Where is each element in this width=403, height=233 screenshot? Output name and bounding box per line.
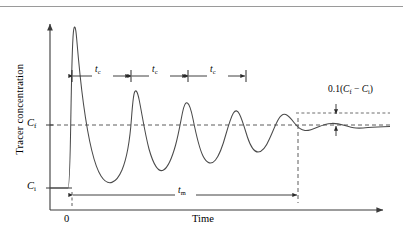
- band-annotation-prefix: 0.1(: [328, 84, 343, 94]
- cf-symbol: C: [27, 117, 34, 128]
- tc-interval-bracket-3: [189, 70, 246, 82]
- x-axis-label: Time: [192, 214, 214, 225]
- tc-label-2: tc: [152, 65, 158, 75]
- chart-svg: [0, 0, 403, 233]
- tc-interval-bracket-2: [132, 70, 188, 82]
- ci-subscript: i: [34, 185, 36, 193]
- tc-subscript-3: c: [213, 68, 216, 75]
- y-axis-label: Tracer concentration: [15, 44, 26, 174]
- tracer-concentration-curve: [50, 27, 390, 188]
- band-annotation-cf-sub: f: [349, 88, 351, 95]
- tm-label: tm: [178, 186, 186, 196]
- tc-label-1: tc: [95, 65, 101, 75]
- ci-label: Ci: [27, 181, 36, 192]
- tc-subscript-2: c: [155, 68, 158, 75]
- band-annotation-ci-sub: i: [368, 88, 370, 95]
- band-annotation: 0.1(Cf − Ci): [328, 85, 373, 95]
- ci-symbol: C: [27, 180, 34, 191]
- cf-label: Cf: [27, 118, 36, 129]
- band-annotation-suffix: ): [370, 84, 373, 94]
- figure-container: Tracer concentration Cf Ci 0 Time tc tc …: [0, 0, 403, 233]
- band-annotation-minus: −: [352, 84, 362, 94]
- tc-subscript-1: c: [98, 68, 101, 75]
- origin-label: 0: [64, 214, 69, 225]
- tm-subscript: m: [181, 189, 186, 196]
- tc-label-3: tc: [210, 65, 216, 75]
